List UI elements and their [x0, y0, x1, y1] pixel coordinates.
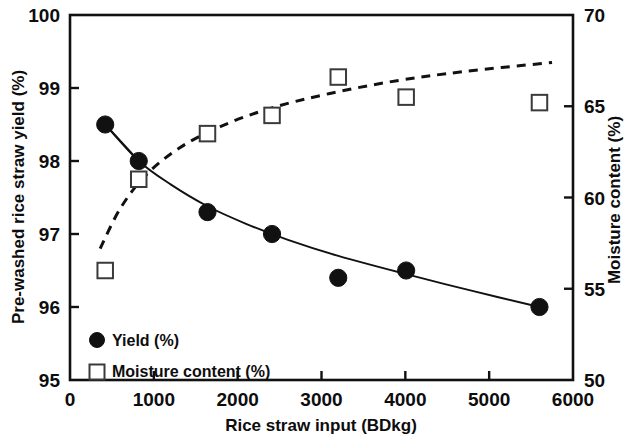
chart-canvas: 9596979899100 5055606570 010002000300040…	[0, 0, 631, 437]
y-axis-left-tick-label: 100	[28, 5, 60, 26]
x-axis-tick-label: 0	[65, 389, 76, 410]
y-axis-left-tick-label: 98	[39, 151, 60, 172]
x-axis-tick-label: 6000	[552, 389, 594, 410]
y-axis-right-title: Moisture content (%)	[605, 116, 624, 284]
data-point-yield	[199, 204, 216, 221]
data-point-moisture	[97, 263, 113, 279]
legend-label-moisture: Moisture content (%)	[112, 363, 270, 380]
y-axis-right-tick-label: 65	[584, 96, 606, 117]
x-axis-tick-labels: 0100020003000400050006000	[65, 389, 594, 410]
x-axis-tick-label: 1000	[133, 389, 175, 410]
y-axis-left-tick-label: 99	[39, 78, 60, 99]
y-axis-right-ticks	[564, 106, 573, 289]
y-axis-right-tick-label: 50	[584, 370, 605, 391]
data-point-moisture	[200, 126, 216, 141]
x-axis-title: Rice straw input (BDkg)	[225, 416, 417, 435]
trend-line-moisture	[100, 62, 552, 248]
y-axis-left-tick-label: 95	[39, 370, 61, 391]
trend-line-yield	[105, 125, 539, 308]
y-axis-right-tick-labels: 5055606570	[584, 5, 606, 391]
data-point-yield	[531, 298, 548, 315]
plot-frame	[70, 15, 573, 380]
chart-figure: 9596979899100 5055606570 010002000300040…	[0, 0, 631, 437]
x-axis-tick-label: 3000	[300, 389, 342, 410]
legend-label-yield: Yield (%)	[112, 332, 179, 349]
y-axis-right-tick-label: 55	[584, 279, 606, 300]
chart-legend: Yield (%) Moisture content (%)	[90, 332, 271, 380]
data-point-yield	[130, 152, 147, 169]
data-point-moisture	[398, 89, 414, 105]
y-axis-right-tick-label: 60	[584, 188, 605, 209]
data-point-moisture	[131, 172, 147, 188]
x-axis-tick-label: 4000	[384, 389, 426, 410]
x-axis-tick-label: 2000	[217, 389, 259, 410]
data-markers	[97, 69, 548, 315]
data-point-yield	[398, 262, 415, 279]
y-axis-right-tick-label: 70	[584, 5, 605, 26]
data-point-moisture	[532, 95, 548, 111]
trend-curves	[100, 62, 552, 307]
legend-marker-moisture	[90, 365, 105, 380]
data-point-yield	[263, 225, 280, 242]
data-point-yield	[97, 116, 114, 133]
y-axis-left-ticks	[70, 88, 79, 307]
x-axis-tick-label: 5000	[468, 389, 510, 410]
data-point-moisture	[331, 69, 347, 85]
legend-marker-yield	[90, 333, 105, 348]
y-axis-left-title: Pre-washed rice straw yield (%)	[9, 70, 28, 324]
data-point-moisture	[264, 108, 280, 124]
data-point-yield	[330, 269, 347, 286]
y-axis-left-tick-labels: 9596979899100	[28, 5, 60, 391]
y-axis-left-tick-label: 96	[39, 297, 60, 318]
y-axis-left-tick-label: 97	[39, 224, 60, 245]
